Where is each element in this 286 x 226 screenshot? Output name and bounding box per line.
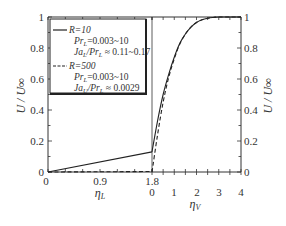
y-tick-label: 0.4 [30, 104, 44, 116]
legend-r10-pr: PrL=0.003~10 [73, 36, 129, 47]
x-axis-title-left: ηL [95, 186, 106, 201]
legend: R=10 PrL=0.003~10 JaL/PrL ≈ 0.11~0.17 R=… [50, 19, 151, 94]
y-left-tick-labels: 0 0.2 0.4 0.6 0.8 1 [30, 11, 44, 178]
x-tick-label: 0 [43, 175, 49, 187]
legend-r500-pr: PrL=0.003~10 [73, 72, 129, 83]
series-r10-vapor-line [152, 17, 241, 152]
y-tick-label: 1 [244, 11, 250, 23]
chart-canvas: 0 0.2 0.4 0.6 0.8 1 0 0.2 0.4 0.6 0.8 1 … [0, 0, 286, 226]
y-axis-title-left: U / U∞ [14, 78, 28, 114]
legend-label-r10: R=10 [68, 25, 91, 35]
x-tick-label: 4 [238, 186, 244, 198]
y-tick-label: 0.2 [30, 135, 44, 147]
y-tick-label: 0.6 [30, 73, 44, 85]
y-tick-label: 0.6 [244, 73, 258, 85]
x-right-tick-labels: 0 1 2 3 4 [149, 186, 244, 198]
y-tick-label: 1 [39, 11, 45, 23]
y-axis-title-right: U / U∞ [261, 78, 275, 114]
x-axis-title-right: ηV [190, 197, 202, 212]
y-tick-label: 0 [244, 166, 250, 178]
y-tick-label: 0.8 [244, 42, 258, 54]
x-tick-label: 0 [149, 186, 155, 198]
series-r10-liquid-line [48, 152, 152, 172]
y-right-tick-labels: 0 0.2 0.4 0.6 0.8 1 [244, 11, 258, 178]
x-left-tick-labels: 0 0.9 1.8 [43, 175, 159, 187]
y-tick-label: 0.8 [30, 42, 44, 54]
series-r500-vapor-line [152, 17, 241, 172]
y-tick-label: 0.2 [244, 135, 258, 147]
x-tick-label: 1 [171, 186, 177, 198]
x-tick-label: 3 [216, 186, 222, 198]
legend-label-r500: R=500 [68, 61, 96, 71]
y-tick-label: 0.4 [244, 104, 258, 116]
